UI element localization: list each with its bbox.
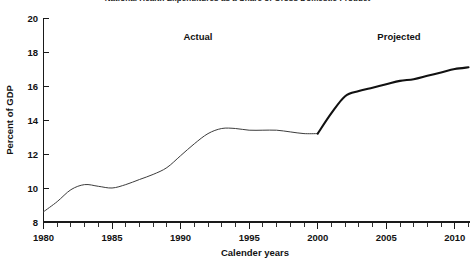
y-ticklabel-10: 10: [27, 183, 38, 194]
y-ticklabel-18: 18: [27, 47, 38, 58]
x-ticklabel-2010: 2010: [444, 232, 465, 243]
x-axis-minor-ticks: [57, 222, 468, 227]
annotation-projected: Projected: [377, 31, 420, 42]
y-ticklabel-20: 20: [27, 13, 38, 24]
x-axis-title: Calender years: [221, 247, 289, 258]
line-chart-svg: 8 10 12 14 16 18 20 Percent of GDP: [0, 0, 475, 261]
series-line-actual: [44, 128, 318, 212]
chart-container: National Health Expenditures as a Share …: [0, 0, 475, 261]
x-ticklabel-2000: 2000: [307, 232, 328, 243]
x-ticklabel-2005: 2005: [376, 232, 398, 243]
y-ticklabel-12: 12: [27, 149, 38, 160]
y-ticklabel-14: 14: [27, 115, 38, 126]
x-ticklabel-1980: 1980: [33, 232, 54, 243]
y-axis-ticks: [44, 18, 50, 222]
series-line-projected: [318, 67, 469, 133]
y-axis-title: Percent of GDP: [4, 84, 15, 154]
y-ticklabel-16: 16: [27, 81, 38, 92]
x-ticklabel-1985: 1985: [102, 232, 124, 243]
x-ticklabel-1995: 1995: [239, 232, 261, 243]
annotation-actual: Actual: [183, 31, 212, 42]
x-axis-major-ticks: [44, 222, 455, 229]
x-ticklabel-1990: 1990: [170, 232, 191, 243]
y-ticklabel-8: 8: [33, 217, 38, 228]
